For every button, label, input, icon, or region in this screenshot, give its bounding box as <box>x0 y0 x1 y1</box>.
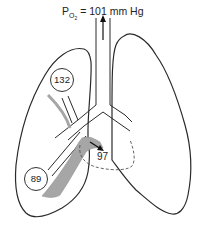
lung-diagram: PO2 = 101 mm Hg 132 89 97 <box>0 0 204 231</box>
pulmonary-vessel <box>42 137 103 197</box>
lower-vessel-value-circle: 89 <box>24 167 48 191</box>
right-lung-outline <box>112 34 191 214</box>
mixed-value-label: 97 <box>97 152 108 162</box>
po2-label: PO2 = 101 mm Hg <box>62 5 144 21</box>
upper-vessel-value-circle: 132 <box>50 68 74 92</box>
lung-drawing <box>0 0 204 231</box>
